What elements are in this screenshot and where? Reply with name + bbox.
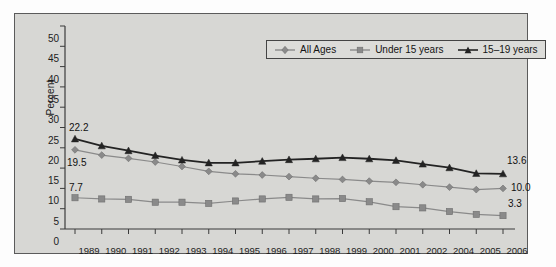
x-tick-1994: 1994	[208, 245, 238, 257]
data-point-marker	[393, 204, 399, 210]
data-point-marker	[313, 196, 319, 202]
annotation-start-under-15: 7.7	[69, 183, 83, 193]
y-tick-30: 30	[37, 115, 59, 125]
y-tick-15: 15	[37, 176, 59, 186]
y-tick-0: 0	[37, 237, 59, 247]
x-tick-1989: 1989	[74, 245, 104, 257]
x-tick-1998: 1998	[315, 245, 345, 257]
data-point-marker	[446, 208, 452, 214]
data-point-marker	[72, 195, 78, 201]
x-tick-2004: 2004	[449, 245, 479, 257]
y-tick-25: 25	[37, 136, 59, 146]
data-point-marker	[286, 173, 293, 180]
data-point-marker	[500, 185, 507, 192]
annotation-end-under-15: 3.3	[508, 199, 522, 209]
annotation-start-all-ages: 19.5	[67, 158, 86, 168]
square-marker-icon	[349, 45, 371, 55]
triangle-marker-icon	[457, 45, 479, 55]
data-point-marker	[232, 198, 238, 204]
data-point-marker	[98, 152, 105, 159]
x-tick-2001: 2001	[395, 245, 425, 257]
annotation-start-15-19: 22.2	[69, 123, 88, 133]
legend-item-under-15-years[interactable]: Under 15 years	[349, 44, 443, 55]
data-point-marker	[152, 159, 159, 166]
annotation-end-15-19: 13.6	[507, 156, 526, 166]
data-point-marker	[125, 155, 132, 162]
y-tick-20: 20	[37, 156, 59, 166]
legend-label-under-15-years: Under 15 years	[375, 44, 443, 55]
data-point-marker	[72, 146, 79, 153]
y-axis-tick-labels: 50454035302520151050	[37, 39, 59, 242]
legend-item-all-ages[interactable]: All Ages	[274, 44, 336, 55]
annotation-end-all-ages: 10.0	[511, 183, 530, 193]
x-axis-tick-labels: 1989199019911992199319941995199619971998…	[79, 245, 529, 259]
data-point-marker	[286, 194, 292, 200]
series-15-19-years	[71, 135, 506, 177]
y-tick-35: 35	[37, 95, 59, 105]
x-tick-1992: 1992	[154, 245, 184, 257]
diamond-marker-icon	[274, 45, 296, 55]
data-point-marker	[446, 184, 453, 191]
legend-label-all-ages: All Ages	[300, 44, 336, 55]
chart-figure: Percent 50454035302520151050 19891990199…	[0, 0, 556, 267]
x-tick-2006: 2006	[502, 245, 532, 257]
data-point-marker	[339, 176, 346, 183]
x-tick-1997: 1997	[288, 245, 318, 257]
x-tick-1990: 1990	[101, 245, 131, 257]
data-point-marker	[500, 213, 506, 219]
legend-item-15-19-years[interactable]: 15–19 years	[457, 44, 538, 55]
data-point-marker	[152, 199, 158, 205]
x-tick-2000: 2000	[368, 245, 398, 257]
x-tick-2002: 2002	[422, 245, 452, 257]
data-point-marker	[179, 163, 186, 170]
data-point-marker	[366, 178, 373, 185]
data-point-marker	[259, 196, 265, 202]
data-point-marker	[99, 196, 105, 202]
data-point-marker	[205, 168, 212, 175]
data-point-marker	[419, 181, 426, 188]
data-point-marker	[259, 172, 266, 179]
series-under-15-years	[72, 194, 506, 218]
x-tick-1996: 1996	[261, 245, 291, 257]
x-tick-1995: 1995	[235, 245, 265, 257]
data-point-marker	[125, 196, 131, 202]
data-point-marker	[393, 179, 400, 186]
data-point-marker	[312, 175, 319, 182]
y-tick-50: 50	[37, 34, 59, 44]
data-point-marker	[366, 199, 372, 205]
data-point-marker	[339, 195, 345, 201]
data-point-marker	[420, 205, 426, 211]
data-point-marker	[473, 211, 479, 217]
series-all-ages	[72, 146, 507, 193]
data-point-marker	[179, 199, 185, 205]
y-tick-40: 40	[37, 75, 59, 85]
chart-legend: All Ages Under 15 years	[266, 40, 546, 59]
x-tick-1993: 1993	[181, 245, 211, 257]
y-tick-5: 5	[37, 217, 59, 227]
chart-panel: Percent 50454035302520151050 19891990199…	[14, 13, 528, 254]
x-tick-1991: 1991	[128, 245, 158, 257]
legend-label-15-19-years: 15–19 years	[483, 44, 538, 55]
x-tick-2005: 2005	[475, 245, 505, 257]
y-tick-45: 45	[37, 54, 59, 64]
x-tick-1999: 1999	[342, 245, 372, 257]
data-point-marker	[473, 186, 480, 193]
data-point-marker	[206, 200, 212, 206]
y-tick-10: 10	[37, 196, 59, 206]
data-point-marker	[232, 170, 239, 177]
